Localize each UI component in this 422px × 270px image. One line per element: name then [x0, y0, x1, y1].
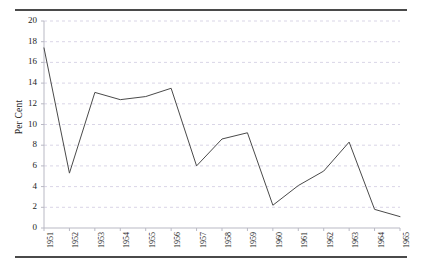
- x-tick-label: 1960: [276, 232, 284, 248]
- x-tick-label: 1951: [47, 232, 55, 248]
- x-tick-label: 1964: [378, 232, 386, 248]
- figure: Per Cent 0246810121416182019511952195319…: [0, 0, 422, 270]
- y-tick-label: 12: [15, 99, 37, 108]
- x-tick-label: 1962: [327, 232, 335, 248]
- y-tick-label: 18: [15, 37, 37, 46]
- y-axis-title: Per Cent: [14, 87, 24, 147]
- x-tick-label: 1956: [174, 232, 182, 248]
- y-tick-label: 8: [15, 140, 37, 149]
- line-chart-svg: [0, 0, 422, 270]
- bottom-rule: [15, 256, 407, 258]
- x-tick-label: 1954: [123, 232, 131, 248]
- x-tick-label: 1955: [149, 232, 157, 248]
- y-tick-label: 2: [15, 202, 37, 211]
- y-tick-label: 16: [15, 57, 37, 66]
- y-tick-label: 14: [15, 78, 37, 87]
- y-tick-label: 20: [15, 16, 37, 25]
- y-tick-label: 4: [15, 182, 37, 191]
- x-tick-label: 1963: [352, 232, 360, 248]
- x-tick-label: 1965: [403, 232, 411, 248]
- chart-plot-area: Per Cent 0246810121416182019511952195319…: [0, 0, 422, 270]
- data-series-line: [44, 48, 400, 217]
- y-tick-label: 0: [15, 223, 37, 232]
- x-tick-label: 1952: [72, 232, 80, 248]
- y-tick-label: 6: [15, 161, 37, 170]
- x-tick-label: 1959: [250, 232, 258, 248]
- x-tick-label: 1957: [200, 232, 208, 248]
- y-tick-label: 10: [15, 120, 37, 129]
- x-tick-label: 1958: [225, 232, 233, 248]
- x-tick-label: 1961: [301, 232, 309, 248]
- x-tick-label: 1953: [98, 232, 106, 248]
